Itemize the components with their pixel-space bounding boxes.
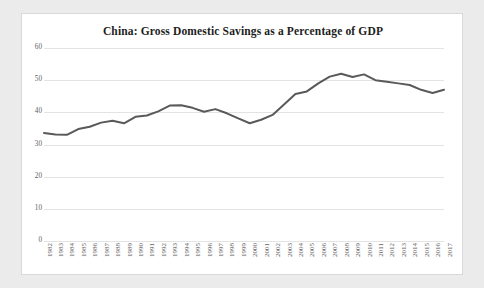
x-axis-tick-label: 1982 bbox=[47, 243, 54, 257]
x-axis-tick-label: 1988 bbox=[115, 243, 122, 257]
x-axis-tick-label: 2013 bbox=[401, 243, 408, 257]
x-axis-tick-label: 2007 bbox=[332, 243, 339, 257]
x-axis-tick-label: 2002 bbox=[275, 243, 282, 257]
x-axis-tick-label: 1996 bbox=[207, 243, 214, 257]
x-axis-tick-label: 1986 bbox=[92, 243, 99, 257]
x-axis-tick-label: 1995 bbox=[195, 243, 202, 257]
chart-panel: China: Gross Domestic Savings as a Perce… bbox=[21, 13, 463, 275]
y-axis-tick-label: 10 bbox=[20, 205, 42, 212]
x-axis-tick-label: 2016 bbox=[435, 243, 442, 257]
x-axis-tick-label: 2011 bbox=[378, 243, 385, 257]
x-axis-tick-label: 2004 bbox=[298, 243, 305, 257]
chart-title: China: Gross Domestic Savings as a Perce… bbox=[22, 25, 464, 37]
y-axis-tick-label: 30 bbox=[20, 141, 42, 148]
x-axis-tick-label: 2008 bbox=[344, 243, 351, 257]
x-axis-tick-label: 1993 bbox=[172, 243, 179, 257]
x-axis-tick-label: 2014 bbox=[412, 243, 419, 257]
y-axis-tick-label: 0 bbox=[20, 237, 42, 244]
y-axis-tick-label: 40 bbox=[20, 108, 42, 115]
x-axis-tick-label: 2010 bbox=[367, 243, 374, 257]
x-axis-tick-label: 2012 bbox=[389, 243, 396, 257]
chart-page: China: Gross Domestic Savings as a Perce… bbox=[0, 0, 484, 288]
x-axis: 1982198319841985198619871988198919901991… bbox=[44, 243, 444, 273]
x-axis-tick-label: 1992 bbox=[161, 243, 168, 257]
x-axis-tick-label: 1997 bbox=[218, 243, 225, 257]
x-axis-tick-label: 1984 bbox=[69, 243, 76, 257]
y-axis-tick-label: 60 bbox=[20, 44, 42, 51]
plot-area bbox=[44, 48, 444, 241]
line-series-china-savings bbox=[44, 48, 444, 241]
x-axis-tick-label: 2017 bbox=[447, 243, 454, 257]
y-axis-tick-label: 20 bbox=[20, 173, 42, 180]
y-axis: 0102030405060 bbox=[18, 48, 42, 241]
x-axis-tick-label: 1983 bbox=[58, 243, 65, 257]
x-axis-tick-label: 2003 bbox=[287, 243, 294, 257]
x-axis-tick-label: 1985 bbox=[81, 243, 88, 257]
x-axis-tick-label: 2015 bbox=[424, 243, 431, 257]
x-axis-tick-label: 2009 bbox=[355, 243, 362, 257]
x-axis-tick-label: 1999 bbox=[241, 243, 248, 257]
x-axis-tick-label: 1998 bbox=[229, 243, 236, 257]
x-axis-tick-label: 1990 bbox=[138, 243, 145, 257]
x-axis-tick-label: 2001 bbox=[264, 243, 271, 257]
x-axis-tick-label: 2000 bbox=[252, 243, 259, 257]
y-axis-tick-label: 50 bbox=[20, 76, 42, 83]
x-axis-tick-label: 1994 bbox=[184, 243, 191, 257]
x-axis-tick-label: 1991 bbox=[149, 243, 156, 257]
x-axis-tick-label: 1989 bbox=[127, 243, 134, 257]
x-axis-tick-label: 2006 bbox=[321, 243, 328, 257]
x-axis-tick-label: 2005 bbox=[309, 243, 316, 257]
x-axis-tick-label: 1987 bbox=[104, 243, 111, 257]
